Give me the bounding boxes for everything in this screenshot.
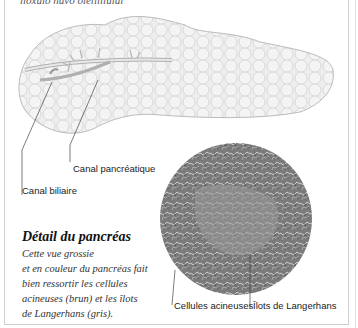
- desc-line: acineuses (brun) et les îlots: [22, 291, 162, 306]
- label-canal-pancreatique: Canal pancréatique: [73, 163, 155, 174]
- detail-description: Cette vue grossie et en couleur du pancr…: [22, 246, 162, 321]
- detail-title: Détail du pancréas: [22, 229, 131, 245]
- pancreas-body: [19, 16, 333, 133]
- desc-line: de Langerhans (gris).: [22, 306, 162, 321]
- cut-caption: lioxuio nuvo oiéiiiiiuiui: [20, 0, 123, 6]
- desc-line: et en couleur du pancréas fait: [22, 261, 162, 276]
- desc-line: bien ressortir les cellules: [22, 276, 162, 291]
- label-cellules-acineuses: Cellules acineuses: [174, 300, 253, 311]
- label-canal-biliaire: Canal biliaire: [22, 185, 77, 196]
- label-ilots-langerhans: Îlots de Langerhans: [253, 300, 336, 311]
- desc-line: Cette vue grossie: [22, 246, 162, 261]
